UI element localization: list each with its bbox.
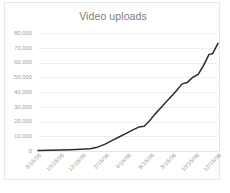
y-axis-tick-label: 0 — [8, 148, 32, 154]
y-axis-tick-label: 40,000 — [8, 89, 32, 95]
y-axis-tick-label: 60,000 — [8, 59, 32, 65]
chart-frame: Video uploads 010,00020,00030,00040,0005… — [4, 2, 220, 180]
y-axis-labels: 010,00020,00030,00040,00050,00060,00070,… — [5, 33, 32, 151]
y-axis-tick-label: 10,000 — [8, 133, 32, 139]
y-axis-tick-label: 70,000 — [8, 45, 32, 51]
chart-title: Video uploads — [5, 10, 221, 22]
x-axis-labels: 8/15/0510/15/0512/15/052/15/064/15/066/1… — [34, 152, 218, 186]
y-axis-tick-label: 20,000 — [8, 118, 32, 124]
y-axis-tick-label: 30,000 — [8, 104, 32, 110]
plot-area — [34, 33, 218, 151]
y-axis-tick-label: 50,000 — [8, 74, 32, 80]
x-axis-tick-label: 8/15/05 — [0, 152, 42, 193]
series-line-video-uploads — [34, 33, 218, 151]
y-axis-tick-label: 80,000 — [8, 30, 32, 36]
